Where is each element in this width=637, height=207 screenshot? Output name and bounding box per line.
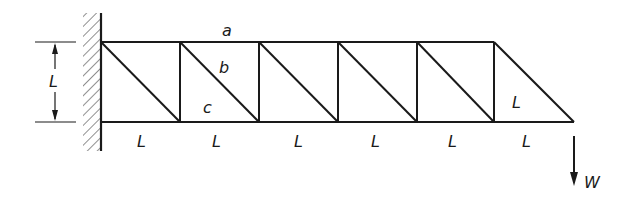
diagonal-member xyxy=(259,42,338,122)
panel-label: L xyxy=(371,132,380,151)
panel-label: L xyxy=(448,132,457,151)
panel-label: L xyxy=(212,132,221,151)
diagonal-member xyxy=(417,42,494,122)
panel-label: L xyxy=(294,132,303,151)
diagonal-member xyxy=(494,42,574,122)
member-label-c: c xyxy=(203,98,212,117)
diagonal-member xyxy=(101,42,180,122)
truss-diagram: a b c L L L L L L L L W xyxy=(0,0,637,207)
last-panel-label: L xyxy=(512,93,521,112)
diagonal-member xyxy=(180,42,259,122)
load-label: W xyxy=(584,173,601,192)
member-label-b: b xyxy=(219,58,229,77)
arrow-up-icon xyxy=(52,43,58,54)
truss-members xyxy=(101,42,574,122)
diagonal-member xyxy=(338,42,417,122)
arrow-down-icon xyxy=(570,172,578,186)
wall-support xyxy=(83,13,101,151)
load-arrow xyxy=(570,136,578,186)
member-label-a: a xyxy=(222,21,232,40)
panel-label: L xyxy=(522,132,531,151)
wall-hatching xyxy=(83,13,101,151)
arrow-down-icon xyxy=(52,110,58,121)
height-label: L xyxy=(49,72,58,91)
panel-label: L xyxy=(137,132,146,151)
